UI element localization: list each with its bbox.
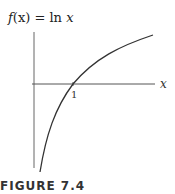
x-tick-label-1: 1 — [71, 89, 77, 100]
figure-caption: FIGURE 7.4 — [0, 179, 85, 193]
plot-area: x 1 — [0, 0, 175, 194]
x-axis-label: x — [160, 77, 167, 91]
ln-curve — [40, 35, 153, 172]
